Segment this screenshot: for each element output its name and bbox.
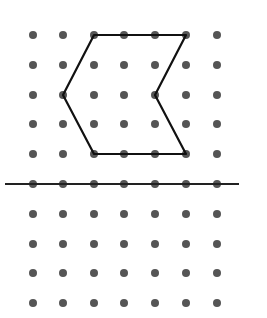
grid-dot [120, 61, 128, 69]
grid-dot [151, 61, 159, 69]
grid-dot [120, 91, 128, 99]
grid-dot [151, 240, 159, 248]
grid-dot [213, 61, 221, 69]
grid-dot [90, 240, 98, 248]
grid-dot [29, 150, 37, 158]
diagram-canvas [0, 0, 267, 318]
grid-dot [59, 150, 67, 158]
grid-dot [59, 299, 67, 307]
grid-dot [151, 269, 159, 277]
grid-dot [29, 210, 37, 218]
grid-dot [213, 299, 221, 307]
grid-dot [90, 91, 98, 99]
grid-dot [90, 269, 98, 277]
grid-dot [59, 240, 67, 248]
grid-dot [120, 299, 128, 307]
grid-dot [59, 31, 67, 39]
grid-dot [151, 210, 159, 218]
grid-dot [59, 120, 67, 128]
grid-dot [29, 61, 37, 69]
grid-dot [213, 91, 221, 99]
grid-dot [59, 210, 67, 218]
grid-dot [90, 120, 98, 128]
grid-dot [120, 269, 128, 277]
grid-dot [59, 61, 67, 69]
grid-dot [182, 269, 190, 277]
grid-dot [120, 240, 128, 248]
grid-dot [29, 240, 37, 248]
grid-dot [29, 120, 37, 128]
grid-dot [151, 120, 159, 128]
grid-dot [29, 31, 37, 39]
grid-dot [182, 240, 190, 248]
grid-dot [213, 210, 221, 218]
grid-dot [213, 269, 221, 277]
grid-dot [29, 91, 37, 99]
grid-dot [29, 269, 37, 277]
grid-dot [59, 269, 67, 277]
grid-dot [182, 91, 190, 99]
dot-grid-diagram [0, 0, 267, 318]
grid-dot [213, 31, 221, 39]
grid-dot [90, 61, 98, 69]
grid-dot [182, 210, 190, 218]
grid-dot [213, 120, 221, 128]
grid-dot [90, 210, 98, 218]
grid-dot [120, 120, 128, 128]
grid-dot [213, 150, 221, 158]
grid-dot [90, 299, 98, 307]
grid-dot [29, 299, 37, 307]
grid-dots [29, 31, 221, 307]
grid-dot [151, 299, 159, 307]
grid-dot [213, 240, 221, 248]
grid-dot [120, 210, 128, 218]
grid-dot [182, 61, 190, 69]
grid-dot [182, 120, 190, 128]
grid-dot [182, 299, 190, 307]
